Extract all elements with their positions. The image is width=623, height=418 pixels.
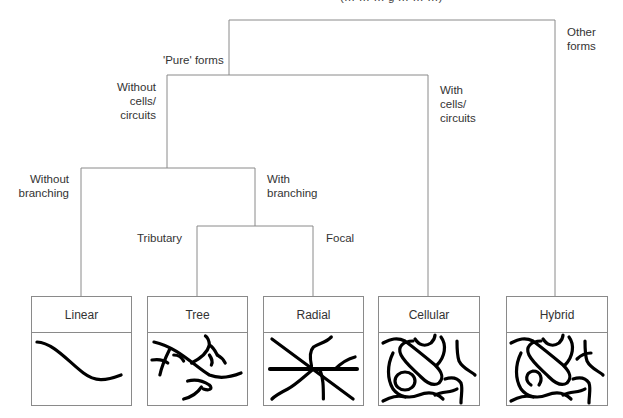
label-with-branching-line1: With — [267, 172, 318, 186]
label-tributary: Tributary — [137, 231, 182, 245]
label-other-forms-line2: forms — [567, 39, 596, 53]
box-radial: Radial — [263, 296, 364, 406]
label-with-branching: With branching — [267, 172, 318, 200]
label-without-branching: Without branching — [10, 172, 69, 200]
label-without-cells: Without cells/ circuits — [108, 80, 156, 122]
label-without-branching-line2: branching — [10, 186, 69, 200]
tree-pattern-icon — [148, 333, 247, 405]
label-with-cells-line1: With — [440, 83, 476, 97]
label-without-cells-line3: circuits — [108, 108, 156, 122]
box-cellular-title: Cellular — [379, 297, 479, 333]
hybrid-pattern-icon — [507, 333, 607, 405]
label-with-cells-line3: circuits — [440, 111, 476, 125]
label-other-forms-line1: Other — [567, 25, 596, 39]
box-radial-title: Radial — [264, 297, 363, 333]
label-focal: Focal — [326, 231, 354, 245]
label-other-forms: Other forms — [567, 25, 596, 53]
label-with-branching-line2: branching — [267, 186, 318, 200]
label-without-cells-line1: Without — [108, 80, 156, 94]
cellular-pattern-icon — [379, 333, 479, 405]
label-with-cells: With cells/ circuits — [440, 83, 476, 125]
label-with-cells-line2: cells/ — [440, 97, 476, 111]
box-hybrid: Hybrid — [506, 296, 608, 406]
label-pure-forms: 'Pure' forms — [163, 53, 224, 67]
label-without-branching-line1: Without — [10, 172, 69, 186]
box-linear-title: Linear — [32, 297, 131, 333]
box-tree: Tree — [147, 296, 248, 406]
box-tree-title: Tree — [148, 297, 247, 333]
box-cellular: Cellular — [378, 296, 480, 406]
radial-pattern-icon — [264, 333, 363, 405]
linear-pattern-icon — [32, 333, 131, 405]
box-linear: Linear — [31, 296, 132, 406]
label-without-cells-line2: cells/ — [108, 94, 156, 108]
box-hybrid-title: Hybrid — [507, 297, 607, 333]
